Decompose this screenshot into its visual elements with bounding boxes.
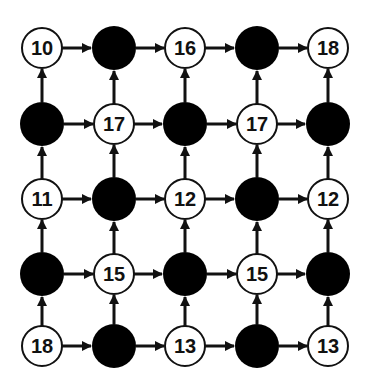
node-value: 10 [31, 37, 53, 59]
numbered-node: 17 [94, 104, 134, 144]
filled-circle-icon [92, 324, 136, 368]
filled-node [306, 102, 350, 146]
filled-node [235, 26, 279, 70]
filled-node [235, 177, 279, 221]
numbered-node: 11 [22, 179, 62, 219]
filled-circle-icon [163, 252, 207, 296]
node-value: 18 [31, 335, 53, 357]
node-value: 13 [174, 335, 196, 357]
filled-circle-icon [92, 26, 136, 70]
filled-node [20, 252, 64, 296]
numbered-node: 18 [308, 28, 348, 68]
node-value: 15 [103, 263, 125, 285]
filled-circle-icon [92, 177, 136, 221]
filled-circle-icon [306, 252, 350, 296]
filled-node [20, 102, 64, 146]
grid-diagram: 10161817171112121515181313 [0, 0, 366, 389]
numbered-node: 15 [237, 254, 277, 294]
node-value: 12 [317, 188, 339, 210]
numbered-node: 13 [308, 326, 348, 366]
filled-node [306, 252, 350, 296]
node-value: 11 [31, 188, 52, 210]
filled-circle-icon [306, 102, 350, 146]
filled-circle-icon [235, 26, 279, 70]
numbered-node: 17 [237, 104, 277, 144]
filled-circle-icon [163, 102, 207, 146]
numbered-node: 12 [308, 179, 348, 219]
node-value: 15 [246, 263, 268, 285]
numbered-node: 16 [165, 28, 205, 68]
grid-graph-canvas: 10161817171112121515181313 [0, 0, 366, 389]
filled-node [92, 324, 136, 368]
node-value: 17 [103, 113, 125, 135]
filled-circle-icon [20, 102, 64, 146]
numbered-node: 18 [22, 326, 62, 366]
filled-circle-icon [20, 252, 64, 296]
filled-node [163, 252, 207, 296]
filled-circle-icon [235, 177, 279, 221]
node-value: 17 [246, 113, 268, 135]
numbered-node: 15 [94, 254, 134, 294]
node-value: 16 [174, 37, 196, 59]
node-value: 13 [317, 335, 339, 357]
filled-node [92, 26, 136, 70]
numbered-node: 10 [22, 28, 62, 68]
numbered-node: 12 [165, 179, 205, 219]
node-value: 12 [174, 188, 196, 210]
filled-node [235, 324, 279, 368]
filled-circle-icon [235, 324, 279, 368]
node-value: 18 [317, 37, 339, 59]
numbered-node: 13 [165, 326, 205, 366]
filled-node [163, 102, 207, 146]
filled-node [92, 177, 136, 221]
